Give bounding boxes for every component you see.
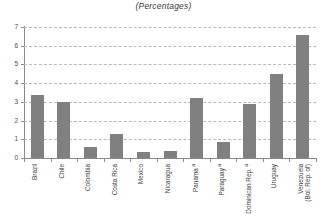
x-tick-label: Uruguay — [270, 164, 277, 188]
x-tick-label: Nicaragua — [164, 164, 171, 193]
bar — [296, 35, 309, 159]
bar — [190, 98, 203, 158]
y-tick-label: 6 — [14, 42, 18, 49]
plot-area — [24, 27, 316, 158]
x-tick-mark — [51, 158, 52, 162]
x-tick-mark — [289, 158, 290, 162]
bar — [217, 142, 230, 158]
x-tick-mark — [77, 158, 78, 162]
x-tick-mark — [236, 158, 237, 162]
y-tick-label: 1 — [14, 136, 18, 143]
x-tick-mark — [157, 158, 158, 162]
bar-chart: (Percentages) 01234567 BrazilChileColomb… — [0, 0, 327, 222]
bar — [31, 95, 44, 158]
x-tick-label: Chile — [58, 164, 65, 179]
y-tick-label: 2 — [14, 117, 18, 124]
y-tick-label: 3 — [14, 99, 18, 106]
y-tick-label: 7 — [14, 24, 18, 31]
x-tick-mark — [316, 158, 317, 162]
x-tick-label: Paraguay a — [217, 164, 225, 196]
bar — [57, 102, 70, 158]
x-tick-label: Mexico — [137, 164, 144, 184]
x-tick-mark — [24, 158, 25, 162]
x-tick-label: Venezuela(Bol. Rep. of) — [297, 164, 311, 202]
x-tick-label: Brazil — [31, 164, 38, 180]
y-axis-labels: 01234567 — [0, 27, 21, 158]
bar — [110, 134, 123, 158]
bars-layer — [24, 27, 316, 158]
x-tick-mark — [183, 158, 184, 162]
x-tick-mark — [210, 158, 211, 162]
x-tick-mark — [130, 158, 131, 162]
bar — [270, 74, 283, 158]
chart-title: (Percentages) — [0, 1, 327, 11]
y-tick-label: 4 — [14, 80, 18, 87]
x-tick-label: Panama a — [191, 164, 199, 192]
x-tick-label: Costa Rica — [111, 164, 118, 195]
y-tick-label: 0 — [14, 155, 18, 162]
x-axis-line — [24, 158, 316, 159]
y-tick-label: 5 — [14, 61, 18, 68]
x-tick-mark — [263, 158, 264, 162]
bar — [84, 147, 97, 158]
bar — [243, 104, 256, 158]
x-tick-label: Dominican Rep. a — [244, 164, 252, 214]
x-tick-mark — [104, 158, 105, 162]
x-tick-label: Colombia — [84, 164, 91, 191]
